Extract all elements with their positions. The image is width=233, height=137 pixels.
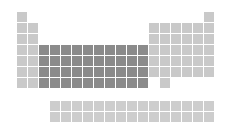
element-cell	[160, 45, 170, 55]
f-block-cell	[138, 101, 148, 111]
element-cell	[204, 45, 214, 55]
element-cell	[17, 12, 27, 22]
transition-element-cell	[39, 45, 49, 55]
f-block-cell	[116, 101, 126, 111]
f-block-cell	[171, 101, 181, 111]
transition-element-cell	[50, 56, 60, 66]
f-block-cell	[182, 112, 192, 122]
f-block-cell	[182, 101, 192, 111]
element-cell	[28, 34, 38, 44]
transition-element-cell	[116, 67, 126, 77]
transition-element-cell	[105, 78, 115, 88]
transition-element-cell	[105, 56, 115, 66]
element-cell	[171, 56, 181, 66]
element-cell	[193, 67, 203, 77]
transition-element-cell	[127, 56, 137, 66]
f-block-cell	[204, 112, 214, 122]
element-cell	[182, 34, 192, 44]
element-cell	[171, 67, 181, 77]
element-cell	[149, 56, 159, 66]
element-cell	[193, 56, 203, 66]
transition-element-cell	[72, 78, 82, 88]
f-block-cell	[127, 112, 137, 122]
element-cell	[28, 23, 38, 33]
f-block-cell	[149, 101, 159, 111]
f-block-cell	[127, 101, 137, 111]
element-cell	[28, 56, 38, 66]
transition-element-cell	[127, 67, 137, 77]
f-block-cell	[105, 112, 115, 122]
transition-element-cell	[94, 78, 104, 88]
element-cell	[160, 56, 170, 66]
f-block-cell	[138, 112, 148, 122]
transition-element-cell	[72, 56, 82, 66]
f-block-cell	[171, 112, 181, 122]
transition-element-cell	[39, 78, 49, 88]
transition-element-cell	[105, 67, 115, 77]
element-cell	[17, 67, 27, 77]
element-cell	[17, 45, 27, 55]
transition-element-cell	[94, 45, 104, 55]
transition-element-cell	[127, 45, 137, 55]
transition-element-cell	[72, 45, 82, 55]
f-block-cell	[116, 112, 126, 122]
element-cell	[149, 34, 159, 44]
element-cell	[149, 45, 159, 55]
element-cell	[171, 45, 181, 55]
f-block-cell	[50, 101, 60, 111]
transition-element-cell	[39, 56, 49, 66]
element-cell	[149, 67, 159, 77]
element-cell	[204, 34, 214, 44]
f-block-cell	[50, 112, 60, 122]
element-cell	[28, 67, 38, 77]
transition-element-cell	[50, 45, 60, 55]
transition-element-cell	[116, 56, 126, 66]
element-cell	[17, 34, 27, 44]
f-block-cell	[105, 101, 115, 111]
transition-element-cell	[105, 45, 115, 55]
f-block-cell	[149, 112, 159, 122]
transition-element-cell	[94, 67, 104, 77]
element-cell	[28, 78, 38, 88]
transition-element-cell	[61, 45, 71, 55]
transition-element-cell	[83, 78, 93, 88]
element-cell	[17, 56, 27, 66]
element-cell	[160, 78, 170, 88]
transition-element-cell	[61, 78, 71, 88]
f-block-cell	[193, 101, 203, 111]
transition-element-cell	[94, 56, 104, 66]
element-cell	[160, 34, 170, 44]
element-cell	[182, 67, 192, 77]
f-block-cell	[61, 101, 71, 111]
transition-element-cell	[83, 56, 93, 66]
element-cell	[193, 45, 203, 55]
element-cell	[28, 45, 38, 55]
transition-element-cell	[39, 67, 49, 77]
transition-element-cell	[61, 56, 71, 66]
transition-element-cell	[116, 78, 126, 88]
transition-element-cell	[72, 67, 82, 77]
f-block-cell	[94, 101, 104, 111]
element-cell	[160, 67, 170, 77]
element-cell	[204, 56, 214, 66]
periodic-table-grid	[0, 0, 233, 137]
element-cell	[204, 12, 214, 22]
f-block-cell	[193, 112, 203, 122]
transition-element-cell	[138, 67, 148, 77]
f-block-cell	[160, 112, 170, 122]
f-block-cell	[72, 101, 82, 111]
transition-element-cell	[83, 45, 93, 55]
element-cell	[193, 23, 203, 33]
transition-element-cell	[83, 67, 93, 77]
element-cell	[193, 34, 203, 44]
element-cell	[171, 23, 181, 33]
element-cell	[149, 23, 159, 33]
element-cell	[17, 78, 27, 88]
f-block-cell	[83, 101, 93, 111]
f-block-cell	[94, 112, 104, 122]
transition-element-cell	[138, 45, 148, 55]
element-cell	[204, 23, 214, 33]
transition-element-cell	[138, 56, 148, 66]
transition-element-cell	[116, 45, 126, 55]
f-block-cell	[204, 101, 214, 111]
